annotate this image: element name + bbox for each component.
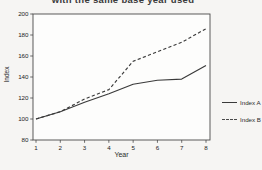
legend-item-index-a: Index A bbox=[222, 99, 261, 106]
legend-label-index-b: Index B bbox=[240, 116, 261, 123]
plot-frame bbox=[33, 14, 210, 140]
x-axis-title: Year bbox=[33, 151, 210, 158]
x-tick-label: 3 bbox=[83, 144, 87, 151]
x-tick-label: 2 bbox=[59, 144, 63, 151]
y-tick-label: 140 bbox=[18, 73, 29, 80]
scanned-chart-page: with the same base year used 20018016014… bbox=[0, 0, 262, 170]
x-tick-label: 6 bbox=[156, 144, 160, 151]
index-b-line-sample bbox=[222, 119, 237, 120]
chart-legend: Index A Index B bbox=[222, 99, 261, 123]
x-tick-label: 8 bbox=[204, 144, 208, 151]
y-tick-label: 100 bbox=[18, 115, 29, 122]
x-tick-label: 5 bbox=[131, 144, 135, 151]
y-tick-label: 200 bbox=[18, 10, 29, 17]
x-tick-label: 4 bbox=[107, 144, 111, 151]
y-axis-title: Index bbox=[3, 60, 10, 90]
index-a-line-sample bbox=[222, 102, 237, 103]
y-tick-label: 80 bbox=[22, 136, 29, 143]
y-tick-label: 160 bbox=[18, 52, 29, 59]
x-tick-label: 1 bbox=[34, 144, 38, 151]
x-tick-label: 7 bbox=[180, 144, 184, 151]
legend-item-index-b: Index B bbox=[222, 116, 261, 123]
line-chart-svg: 2001801601401201008012345678 bbox=[0, 0, 262, 170]
legend-label-index-a: Index A bbox=[240, 99, 261, 106]
y-tick-label: 180 bbox=[18, 31, 29, 38]
y-tick-label: 120 bbox=[18, 94, 29, 101]
